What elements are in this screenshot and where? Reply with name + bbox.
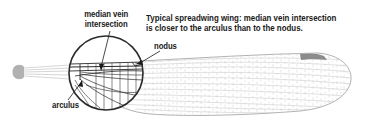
caption-line2: is closer to the arculus than to the nod… [146,23,336,33]
nodus-label: nodus [154,41,177,51]
petiole-veins [24,65,70,79]
spreadwing-wing-diagram: median vein intersection nodus arculus T… [0,0,366,134]
median-vein-label-line1: median vein [83,9,129,19]
diagram-caption: Typical spreadwing wing: median vein int… [146,13,336,33]
stigma [300,53,327,60]
arculus-label: arculus [52,100,79,110]
caption-line1: Typical spreadwing wing: median vein int… [146,13,336,23]
wing-base [13,65,25,80]
median-vein-label-line2: intersection [83,19,129,29]
median-vein-intersection-label: median vein intersection [83,9,129,29]
